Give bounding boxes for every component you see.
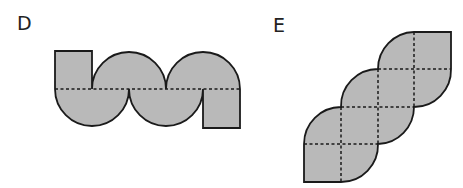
figure-e: E xyxy=(273,14,451,182)
figure-e-shape xyxy=(304,32,451,182)
figure-d-label: D xyxy=(17,12,32,34)
figure-e-label: E xyxy=(273,14,285,36)
figure-canvas: D E xyxy=(0,0,463,188)
figure-d: D xyxy=(17,12,240,128)
